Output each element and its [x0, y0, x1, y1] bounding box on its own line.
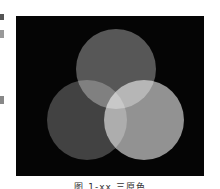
left-edge-text-fragment: [0, 30, 4, 38]
figure-caption: 图 1-xx 三原色: [0, 180, 220, 189]
left-edge-text-fragment: [0, 14, 4, 20]
left-edge-text-fragment: [0, 96, 4, 104]
venn-figure: [16, 16, 204, 176]
circle-bottom-right: [104, 80, 184, 160]
